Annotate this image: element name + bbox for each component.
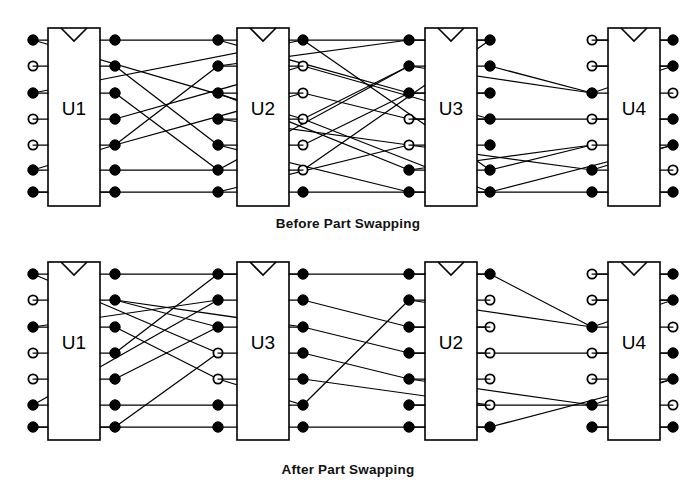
net-line bbox=[303, 300, 409, 405]
schematic-canvas: U1U2U3U4Before Part SwappingU1U3U2U4Afte… bbox=[0, 0, 698, 488]
net-line bbox=[303, 300, 409, 327]
component-label: U4 bbox=[622, 332, 647, 353]
component-label: U2 bbox=[439, 332, 463, 353]
net-line bbox=[115, 353, 218, 427]
component-label: U3 bbox=[439, 98, 463, 119]
component-u1-after[interactable]: U1 bbox=[28, 262, 120, 440]
component-label: U3 bbox=[251, 332, 275, 353]
net-group-after bbox=[33, 274, 673, 427]
component-u4-before[interactable]: U4 bbox=[587, 28, 678, 206]
component-u1-before[interactable]: U1 bbox=[28, 28, 120, 206]
net-line bbox=[490, 145, 592, 170]
component-u4-after[interactable]: U4 bbox=[587, 262, 678, 440]
net-line bbox=[303, 327, 409, 353]
component-label: U1 bbox=[62, 332, 86, 353]
net-group-before bbox=[33, 40, 673, 192]
panel-caption-before: Before Part Swapping bbox=[276, 216, 420, 231]
schematic-diagram: U1U2U3U4Before Part SwappingU1U3U2U4Afte… bbox=[0, 0, 698, 488]
component-u2-after[interactable]: U2 bbox=[404, 262, 495, 440]
component-u3-after[interactable]: U3 bbox=[213, 262, 308, 440]
panel-caption-after: After Part Swapping bbox=[282, 462, 415, 477]
panel-after: U1U3U2U4After Part Swapping bbox=[28, 262, 678, 477]
panel-before: U1U2U3U4Before Part Swapping bbox=[28, 28, 678, 231]
net-line bbox=[115, 274, 218, 353]
component-label: U2 bbox=[251, 98, 275, 119]
component-label: U4 bbox=[622, 98, 647, 119]
net-line bbox=[303, 353, 409, 379]
component-label: U1 bbox=[62, 98, 86, 119]
net-line bbox=[490, 66, 592, 93]
